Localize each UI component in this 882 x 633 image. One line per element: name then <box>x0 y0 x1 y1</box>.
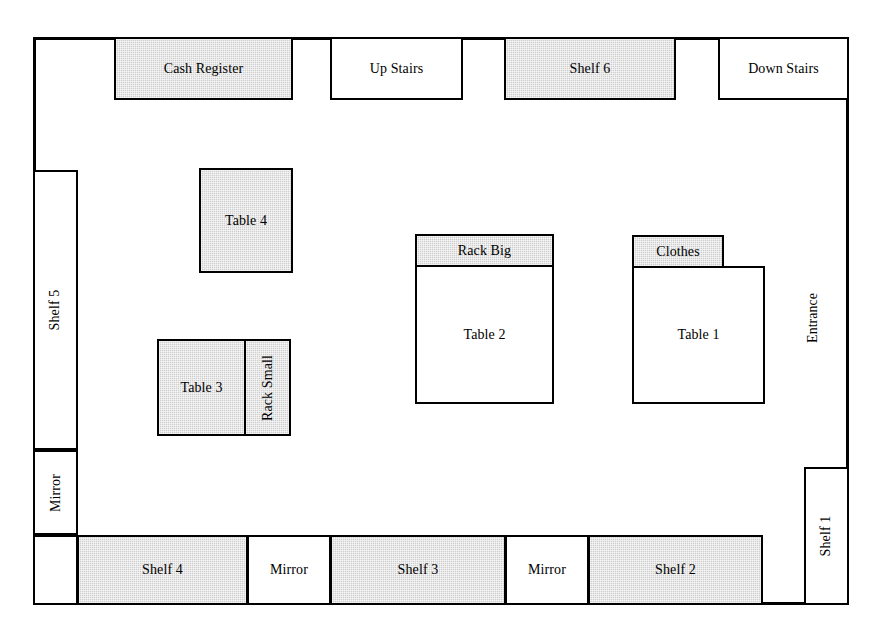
fixture-label-rack-small: Rack Small <box>261 355 275 421</box>
fixture-table-4[interactable]: Table 4 <box>199 168 293 273</box>
bottom-corner-cell <box>33 535 78 605</box>
fixture-shelf-3[interactable]: Shelf 3 <box>330 535 506 605</box>
fixture-label-mirror-bottom-2: Mirror <box>528 563 566 577</box>
fixture-rack-small[interactable]: Rack Small <box>244 339 291 436</box>
store-floor-plan: Cash Register Up Stairs Shelf 6 Down Sta… <box>0 0 882 633</box>
fixture-label-up-stairs: Up Stairs <box>370 62 423 76</box>
fixture-label-shelf-6: Shelf 6 <box>570 62 611 76</box>
fixture-label-cash-register: Cash Register <box>164 62 243 76</box>
fixture-label-shelf-3: Shelf 3 <box>398 563 439 577</box>
fixture-shelf-1[interactable]: Shelf 1 <box>804 467 849 605</box>
fixture-shelf-4[interactable]: Shelf 4 <box>77 535 248 605</box>
fixture-label-clothes: Clothes <box>656 245 699 259</box>
fixture-label-shelf-4: Shelf 4 <box>142 563 183 577</box>
fixture-shelf-6[interactable]: Shelf 6 <box>504 37 676 100</box>
fixture-table-2[interactable]: Table 2 <box>415 265 554 404</box>
fixture-mirror-bottom-2[interactable]: Mirror <box>505 535 589 605</box>
fixture-label-shelf-1: Shelf 1 <box>819 516 833 557</box>
fixture-rack-big[interactable]: Rack Big <box>415 234 554 267</box>
fixture-label-rack-big: Rack Big <box>458 244 511 258</box>
fixture-label-table-4: Table 4 <box>225 214 267 228</box>
fixture-clothes[interactable]: Clothes <box>632 235 724 268</box>
fixture-mirror-bottom-1[interactable]: Mirror <box>247 535 331 605</box>
fixture-shelf-5[interactable]: Shelf 5 <box>33 170 78 450</box>
fixture-up-stairs[interactable]: Up Stairs <box>330 37 463 100</box>
entrance-label: Entrance <box>763 298 863 338</box>
fixture-label-down-stairs: Down Stairs <box>748 62 819 76</box>
fixture-label-shelf-5: Shelf 5 <box>48 290 62 331</box>
fixture-table-1[interactable]: Table 1 <box>632 266 765 404</box>
fixture-down-stairs[interactable]: Down Stairs <box>718 37 849 100</box>
fixture-label-table-1: Table 1 <box>677 328 719 342</box>
fixture-label-mirror-left: Mirror <box>49 474 63 512</box>
fixture-table-3[interactable]: Table 3 <box>157 339 246 436</box>
fixture-mirror-left[interactable]: Mirror <box>33 450 78 535</box>
fixture-label-table-2: Table 2 <box>463 328 505 342</box>
fixture-cash-register[interactable]: Cash Register <box>114 37 293 100</box>
entrance-label-text: Entrance <box>806 293 820 343</box>
fixture-label-shelf-2: Shelf 2 <box>655 563 696 577</box>
fixture-shelf-2[interactable]: Shelf 2 <box>588 535 763 605</box>
fixture-label-table-3: Table 3 <box>180 381 222 395</box>
fixture-label-mirror-bottom-1: Mirror <box>270 563 308 577</box>
